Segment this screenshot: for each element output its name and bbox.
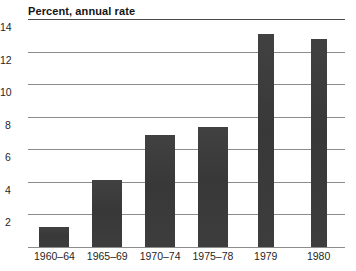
x-axis-tick-label: 1980 <box>292 250 345 262</box>
x-axis-tick-labels: 1960–641965–691970–741975–7819791980 <box>28 250 345 268</box>
x-axis-tick-label: 1979 <box>239 250 292 262</box>
x-axis-tick-label: 1965–69 <box>81 250 134 262</box>
y-axis-tick-label: 4 <box>0 184 22 196</box>
bar-1970–74 <box>145 135 175 247</box>
gridline-6 <box>28 149 345 150</box>
x-axis-tick-label: 1960–64 <box>28 250 81 262</box>
gridline-2 <box>28 214 345 215</box>
x-axis-tick-label: 1970–74 <box>134 250 187 262</box>
gridline-10 <box>28 84 345 85</box>
bar-1960–64 <box>39 227 69 247</box>
x-axis-tick-label: 1975–78 <box>187 250 240 262</box>
bar-1975–78 <box>198 127 228 248</box>
plot-area: 2468101214 <box>28 19 345 247</box>
bar-chart-figure: Percent, annual rate 2468101214 1960–641… <box>0 0 356 271</box>
bar-1965–69 <box>92 180 122 247</box>
y-axis-tick-label: 14 <box>0 21 22 33</box>
y-axis-tick-label: 12 <box>0 54 22 66</box>
gridline-14 <box>28 19 345 20</box>
gridline-8 <box>28 117 345 118</box>
x-axis-line <box>28 247 345 248</box>
y-axis-tick-label: 6 <box>0 151 22 163</box>
y-axis-tick-label: 8 <box>0 119 22 131</box>
gridline-12 <box>28 52 345 53</box>
chart-title: Percent, annual rate <box>28 5 135 17</box>
bar-1979 <box>258 34 274 247</box>
y-axis-tick-label: 10 <box>0 86 22 98</box>
gridline-4 <box>28 182 345 183</box>
y-axis-tick-label: 2 <box>0 216 22 228</box>
bar-1980 <box>311 39 327 247</box>
